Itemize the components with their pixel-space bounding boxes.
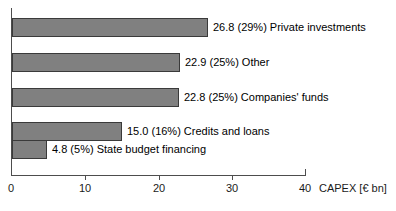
bar-chart: 26.8 (29%) Private investments 22.9 (25%… [0, 0, 396, 211]
bar-label-private-investments: 26.8 (29%) Private investments [213, 21, 366, 34]
bar-label-credits-and-loans: 15.0 (16%) Credits and loans [127, 125, 269, 138]
bar-state-budget-financing [12, 140, 47, 159]
tick-label-20: 20 [144, 182, 174, 195]
tick-mark-40 [305, 169, 306, 176]
tick-label-40: 40 [290, 182, 320, 195]
tick-label-30: 30 [217, 182, 247, 195]
bar-label-companies-funds: 22.8 (25%) Companies' funds [184, 91, 329, 104]
tick-label-10: 10 [70, 182, 100, 195]
tick-label-0: 0 [0, 182, 26, 195]
tick-mark-0 [11, 169, 12, 176]
tick-mark-20 [159, 175, 160, 180]
bar-other [12, 53, 180, 72]
bar-credits-and-loans [12, 122, 122, 141]
plot-area: 26.8 (29%) Private investments 22.9 (25%… [0, 0, 396, 211]
tick-mark-10 [85, 175, 86, 180]
bar-private-investments [12, 18, 208, 37]
bar-label-other: 22.9 (25%) Other [185, 56, 269, 69]
tick-mark-30 [232, 175, 233, 180]
bar-label-state-budget-financing: 4.8 (5%) State budget financing [52, 143, 206, 156]
x-axis-title: CAPEX [€ bn] [319, 182, 387, 195]
bar-companies-funds [12, 88, 179, 107]
